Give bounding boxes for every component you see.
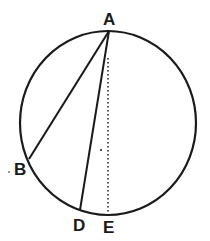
geometry-diagram: A B D E [0, 0, 210, 241]
label-d: D [73, 216, 85, 235]
label-a: A [103, 10, 115, 29]
chord-ab [29, 31, 109, 159]
stray-dot [100, 149, 102, 151]
label-b: B [14, 160, 26, 179]
stray-dot-b [8, 171, 10, 173]
chord-ad [80, 31, 109, 210]
label-e: E [103, 218, 114, 237]
